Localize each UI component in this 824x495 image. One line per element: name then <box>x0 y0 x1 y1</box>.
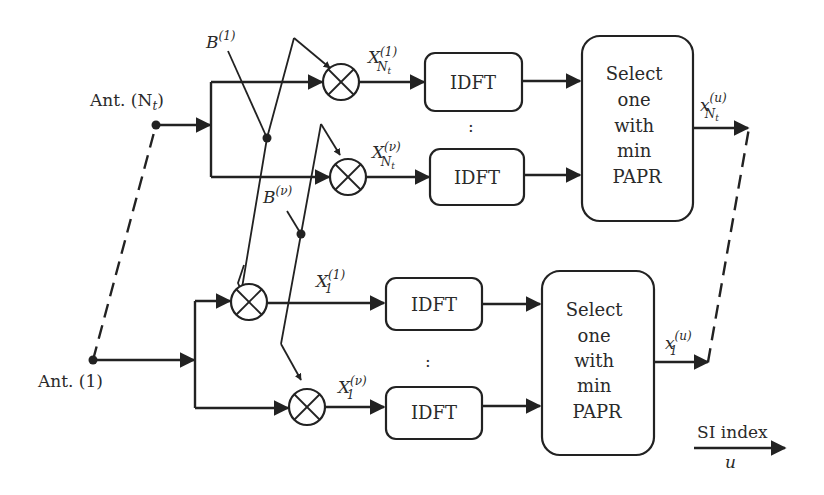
x-1-1-label: X(1)1 <box>314 268 345 296</box>
svg-text:Select one wit: Select one with min PAPR <box>606 63 668 187</box>
svg-text:IDFT: IDFT <box>411 402 457 423</box>
selector-nt: Select one with min PAPR <box>582 36 693 221</box>
b1-to-mixer-nt-1 <box>294 38 330 68</box>
mixer-nt-1 <box>323 64 359 100</box>
mixer-nt-v <box>330 159 366 195</box>
antenna-nt-branch: Ant. (Nt) X(1)Nt X(ν)Nt IDFT : <box>89 36 748 221</box>
svg-text:IDFT: IDFT <box>411 294 457 315</box>
ellipsis-nt: : <box>468 116 474 136</box>
mixer-1-1 <box>231 284 267 320</box>
antenna-dashed-link <box>93 125 156 360</box>
svg-text:IDFT: IDFT <box>454 167 500 188</box>
si-index-label: SI index <box>697 422 768 442</box>
x-nt-v-label: X(ν)Nt <box>370 140 401 171</box>
slm-block-diagram: Ant. (Nt) X(1)Nt X(ν)Nt IDFT : <box>0 0 824 495</box>
selector-1: Select one with min PAPR <box>542 271 654 455</box>
ant-1-label: Ant. (1) <box>37 371 103 391</box>
out-1-label: x(u)1 <box>665 329 692 358</box>
output-dashed-link <box>708 128 749 362</box>
bv-to-mixer-1-v <box>281 344 301 380</box>
antenna-1-branch: Ant. (1) X(1)1 X(ν)1 IDFT : IDFT <box>37 268 708 455</box>
idft-1-1: IDFT <box>386 278 482 330</box>
svg-text:Select one wit: Select one with min PAPR <box>566 299 628 422</box>
idft-1-v: IDFT <box>386 387 482 439</box>
si-index-var: u <box>725 452 736 472</box>
x-1-v-label: X(ν)1 <box>336 374 367 402</box>
x-nt-1-label: X(1)Nt <box>366 45 397 76</box>
bv-label: B(ν) <box>262 184 292 207</box>
ant-nt-label: Ant. (Nt) <box>89 90 164 113</box>
out-nt-label: x(u)Nt <box>700 91 727 123</box>
bv-to-mixer-nt-v <box>321 124 340 155</box>
idft-nt-v: IDFT <box>430 149 524 205</box>
b1-line <box>240 38 294 300</box>
bv-line <box>281 124 321 344</box>
side-info: SI index u <box>694 422 785 472</box>
b1-pointer <box>228 51 267 138</box>
svg-text:IDFT: IDFT <box>450 72 496 93</box>
idft-nt-1: IDFT <box>425 53 522 111</box>
mixer-1-v <box>289 389 325 425</box>
b1-label: B(1) <box>205 29 236 52</box>
ellipsis-1: : <box>425 351 431 371</box>
